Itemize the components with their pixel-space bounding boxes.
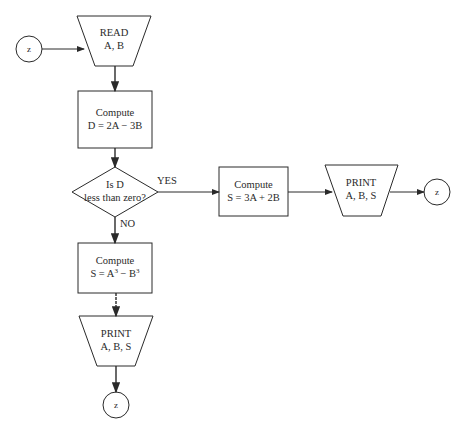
start-connector-label: z xyxy=(16,43,42,56)
compute-s-yes-label: Compute S = 3A + 2B xyxy=(219,178,288,204)
end-connector-no-label: z xyxy=(103,399,129,412)
decision-no-label: NO xyxy=(120,218,135,229)
end-connector-yes-label: z xyxy=(424,186,450,199)
decision-yes-label: YES xyxy=(157,175,177,186)
print-no-label: PRINT A, B, S xyxy=(86,327,146,353)
flowchart-canvas xyxy=(0,0,461,430)
compute-d-label: Compute D = 2A − 3B xyxy=(78,106,152,132)
read-label: READ A, B xyxy=(84,26,144,52)
compute-s-no-label: Compute S = A3 − B3 xyxy=(78,254,152,280)
print-yes-label: PRINT A, B, S xyxy=(331,176,391,202)
decision-label: Is D less than zero? xyxy=(78,178,152,204)
